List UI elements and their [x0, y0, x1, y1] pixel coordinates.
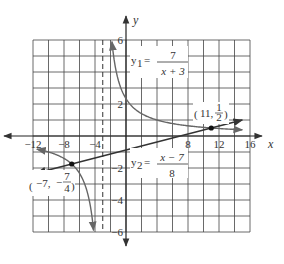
svg-text:8: 8: [169, 167, 175, 179]
x-tick-label: −4: [89, 138, 101, 150]
svg-text:4: 4: [64, 182, 70, 194]
x-tick-label: 12: [214, 138, 225, 150]
svg-text:11,: 11,: [200, 107, 214, 119]
y1-equation-label: y1=7x + 3: [130, 46, 188, 78]
x-axis-label: x: [267, 137, 274, 151]
x-tick-label: −12: [24, 138, 41, 150]
svg-text:2: 2: [216, 111, 222, 123]
svg-text:(: (: [194, 108, 198, 121]
y-tick-label: 2: [118, 98, 124, 110]
x-tick-label: 16: [245, 138, 257, 150]
svg-text:): ): [224, 108, 228, 121]
x-tick-label: −8: [58, 138, 70, 150]
svg-text:2: 2: [137, 159, 143, 171]
svg-text:=: =: [144, 156, 150, 168]
svg-text:x + 3: x + 3: [160, 65, 185, 77]
svg-text:(: (: [29, 180, 33, 193]
intersection-point: [69, 161, 74, 166]
labels: y1=7x + 3y2=x − 78(11,12)(−7,−74): [29, 46, 229, 196]
y2-equation-label: y2=x − 78: [130, 148, 188, 179]
svg-text:7: 7: [64, 170, 70, 182]
y-tick-label: −6: [111, 226, 123, 238]
svg-text:−: −: [56, 176, 62, 188]
svg-text:−7,: −7,: [36, 177, 51, 189]
y-tick-label: −4: [111, 194, 123, 206]
point-label-11-half: (11,12): [193, 101, 229, 124]
intersection-point: [209, 125, 214, 130]
y-tick-label: −2: [111, 162, 123, 174]
graph-canvas: xy−12−8−48121662−2−4−6 y1=7x + 3y2=x − 7…: [0, 0, 284, 264]
point-label-neg7-neg7over4: (−7,−74): [29, 170, 75, 196]
svg-text:1: 1: [137, 57, 143, 69]
y-axis-label: y: [132, 13, 139, 27]
svg-text:): ): [71, 180, 75, 193]
y-tick-label: 6: [118, 34, 124, 46]
svg-text:=: =: [144, 54, 150, 66]
svg-text:7: 7: [170, 49, 176, 61]
svg-text:x − 7: x − 7: [159, 151, 184, 163]
